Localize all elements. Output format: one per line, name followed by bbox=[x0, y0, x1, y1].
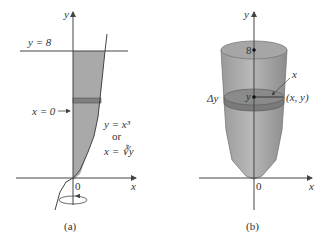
curve-label-or: or bbox=[112, 130, 122, 142]
figure: y x 0 y = 8 x = 0 y = x³ or x = ∛y (a) y… bbox=[0, 0, 327, 244]
top-label: 8 bbox=[246, 44, 252, 56]
slice-thickness-label: Δy bbox=[206, 92, 218, 104]
point-label: (x, y) bbox=[286, 91, 309, 104]
panel-b: y x 0 8 Δy y x (x, y) (b) bbox=[199, 8, 314, 233]
shaded-region bbox=[73, 51, 105, 180]
b-origin-label: 0 bbox=[256, 180, 262, 192]
a-x-axis-label: x bbox=[130, 180, 136, 192]
curve-label-2: x = ∛y bbox=[103, 144, 134, 157]
panel-a: y x 0 y = 8 x = 0 y = x³ or x = ∛y (a) bbox=[16, 8, 136, 233]
radius-label: x bbox=[291, 68, 297, 80]
line-label: y = 8 bbox=[27, 36, 52, 48]
slice-strip bbox=[73, 98, 101, 103]
curve-label-1: y = x³ bbox=[103, 118, 131, 130]
point-8 bbox=[252, 48, 256, 52]
boundary-label: x = 0 bbox=[31, 105, 56, 117]
a-y-axis-label: y bbox=[63, 8, 69, 20]
b-y-axis-label: y bbox=[243, 8, 249, 20]
caption-b: (b) bbox=[246, 220, 259, 233]
a-origin-label: 0 bbox=[75, 180, 81, 192]
caption-a: (a) bbox=[64, 220, 77, 233]
slice-center-label: y bbox=[245, 90, 251, 102]
b-x-axis-label: x bbox=[308, 180, 314, 192]
